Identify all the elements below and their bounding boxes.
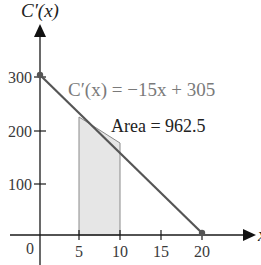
x-axis-arrow-icon (243, 229, 256, 241)
x-tick-label-20: 20 (194, 243, 210, 260)
end-point-marker (199, 230, 205, 236)
x-axis-title: x (257, 224, 261, 245)
y-axis-arrow-icon (34, 24, 46, 37)
chart-canvas: 5 10 15 20 0 300 200 100 C′(x) x C′(x) =… (0, 0, 261, 265)
function-equation-label: C′(x) = −15x + 305 (68, 79, 215, 101)
area-value-label: Area = 962.5 (111, 116, 206, 136)
x-tick-label-10: 10 (112, 243, 128, 260)
y-tick-label-100: 100 (8, 176, 32, 193)
y-tick-label-300: 300 (8, 69, 32, 86)
x-tick-label-15: 15 (153, 243, 169, 260)
y-axis-title: C′(x) (21, 0, 59, 22)
x-tick-label-5: 5 (75, 243, 83, 260)
origin-label: 0 (26, 240, 34, 257)
y-tick-label-200: 200 (8, 123, 32, 140)
start-point-marker (37, 72, 43, 78)
